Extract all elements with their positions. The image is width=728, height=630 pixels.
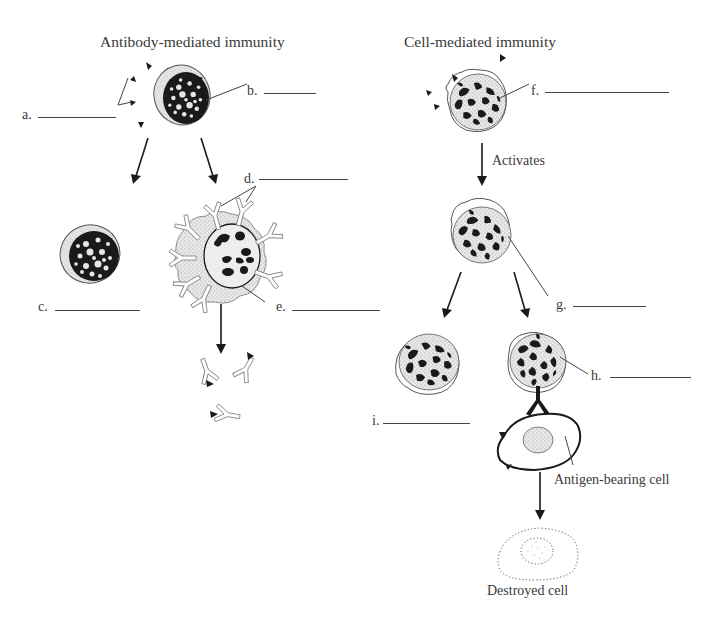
immunity-diagram <box>0 0 728 630</box>
label-b: b. <box>247 84 258 98</box>
memory-t-cell <box>396 334 459 394</box>
title-antibody-mediated: Antibody-mediated immunity <box>100 34 285 50</box>
answer-blank-e[interactable] <box>292 310 380 311</box>
label-g: g. <box>556 298 567 312</box>
antibody-antigen-complexes <box>194 354 260 426</box>
arrows-b-cell <box>136 138 213 176</box>
answer-blank-h[interactable] <box>610 377 691 378</box>
answer-blank-a[interactable] <box>38 117 116 118</box>
activated-t-cell <box>451 198 511 264</box>
b-cell-top <box>147 59 217 131</box>
answer-blank-c[interactable] <box>55 310 140 311</box>
label-e: e. <box>276 300 286 314</box>
label-f: f. <box>531 84 539 98</box>
label-i: i. <box>372 414 379 428</box>
label-h: h. <box>591 369 602 383</box>
answer-blank-f[interactable] <box>545 92 669 93</box>
answer-blank-g[interactable] <box>573 306 646 307</box>
antigen-bearing-cell-label: Antigen-bearing cell <box>554 473 669 487</box>
label-d: d. <box>244 172 255 186</box>
label-a: a. <box>22 108 32 122</box>
title-cell-mediated: Cell-mediated immunity <box>404 34 556 50</box>
destroyed-cell <box>498 528 578 580</box>
cytotoxic-t-cell <box>506 331 567 392</box>
destroyed-cell-label: Destroyed cell <box>487 584 568 598</box>
destroyed-nucleus-dots <box>527 541 545 558</box>
answer-blank-b[interactable] <box>264 93 316 94</box>
answer-blank-i[interactable] <box>383 423 470 424</box>
memory-b-cell <box>52 216 128 291</box>
activates-label: Activates <box>492 154 545 168</box>
label-c: c. <box>38 300 48 314</box>
answer-blank-d[interactable] <box>259 179 348 180</box>
antigen-bearing-cell <box>498 414 581 470</box>
a-pointer <box>118 78 132 105</box>
